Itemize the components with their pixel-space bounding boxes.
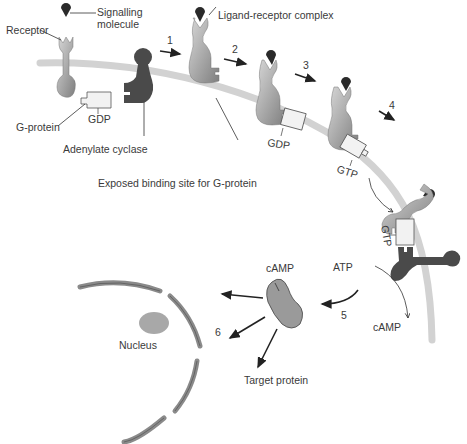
step-number-3: 3	[303, 59, 309, 71]
receptor-gprotein-gtp-icon	[328, 77, 371, 166]
signalling-molecule-icon	[61, 3, 96, 17]
nuclear-envelope	[80, 283, 200, 442]
signal-transduction-diagram: Signalling molecule Receptor Ligand-rece…	[0, 0, 467, 444]
label-camp-molecule: cAMP	[266, 262, 294, 274]
label-gtp-2: GTP	[379, 224, 395, 247]
step-number-5: 5	[341, 309, 347, 321]
label-camp-product: cAMP	[373, 321, 401, 333]
ligand-receptor-complex-icon	[189, 7, 238, 140]
label-signalling-molecule-1: Signalling	[97, 6, 143, 18]
label-gdp-1: GDP	[88, 113, 111, 125]
label-receptor: Receptor	[6, 24, 49, 36]
step-number-2: 2	[232, 43, 238, 55]
receptor-gprotein-gdp-icon	[256, 50, 306, 136]
adenylate-cyclase-icon	[124, 48, 153, 136]
nucleolus-icon	[139, 312, 169, 334]
label-signalling-molecule-2: molecule	[97, 18, 139, 30]
label-atp: ATP	[333, 261, 353, 273]
label-nucleus: Nucleus	[119, 339, 157, 351]
label-exposed-binding-site: Exposed binding site for G-protein	[98, 177, 257, 189]
label-target-protein: Target protein	[244, 374, 308, 386]
camp-molecule-icon	[267, 279, 303, 328]
label-g-protein: G-protein	[16, 121, 60, 133]
label-adenylate-cyclase: Adenylate cyclase	[63, 143, 148, 155]
label-gdp-2: GDP	[267, 136, 291, 151]
label-gtp-1: GTP	[335, 162, 359, 180]
step-number-4: 4	[389, 99, 395, 111]
step-number-1: 1	[167, 34, 173, 46]
label-ligand-receptor-complex: Ligand-receptor complex	[218, 9, 334, 21]
step-number-6: 6	[215, 326, 221, 338]
